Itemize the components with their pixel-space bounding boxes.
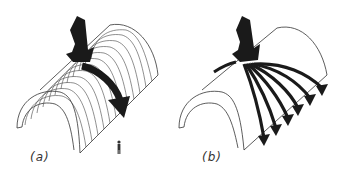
panel-a-ribbed-vault: (a) — [0, 0, 172, 177]
panel-b-shell-vault: (b) — [172, 0, 344, 177]
arrow-down-icon — [232, 16, 260, 62]
vault-outline — [17, 24, 158, 153]
panel-label-b: (b) — [202, 150, 222, 164]
arrow-curve-icon — [82, 66, 120, 100]
panel-label-a: (a) — [30, 150, 50, 164]
arrow-head-icon — [108, 96, 130, 118]
load-arrows — [214, 16, 328, 146]
arrow-heads — [258, 84, 328, 146]
arrow-down-icon — [66, 16, 94, 62]
ribbed-vault-drawing — [0, 0, 172, 177]
shell-vault-drawing — [172, 0, 344, 177]
person-icon — [117, 140, 120, 154]
vault-ribs — [25, 30, 152, 147]
